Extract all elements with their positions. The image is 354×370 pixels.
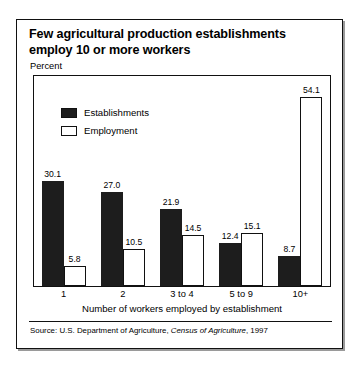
legend-label-employment: Employment <box>84 126 137 136</box>
bar-employment[interactable] <box>123 249 145 286</box>
bar-value-label: 8.7 <box>283 245 295 254</box>
legend-item-employment: Employment <box>61 122 149 139</box>
bar-group: 12.415.1 <box>219 76 263 286</box>
x-axis-tick-label: 1 <box>61 288 66 300</box>
bar-group: 8.754.1 <box>278 76 322 286</box>
bar-group: 21.914.5 <box>160 76 204 286</box>
bar-value-label: 12.4 <box>222 232 239 241</box>
bar-value-label: 5.8 <box>69 255 81 264</box>
x-axis-tick-label: 5 to 9 <box>230 288 253 300</box>
bar-establishments[interactable] <box>219 243 241 286</box>
source-prefix: Source: U.S. Department of Agriculture, <box>30 326 171 335</box>
bar-value-label: 54.1 <box>303 86 320 95</box>
bar-employment[interactable] <box>241 233 263 286</box>
chart-legend: Establishments Employment <box>61 104 149 140</box>
legend-swatch-employment-icon <box>61 126 77 136</box>
bar-value-label: 14.5 <box>185 224 202 233</box>
source-note: Source: U.S. Department of Agriculture, … <box>30 326 268 336</box>
bar-establishments[interactable] <box>160 209 182 286</box>
bar-employment[interactable] <box>300 97 322 286</box>
bar-employment[interactable] <box>182 235 204 286</box>
source-divider <box>29 321 332 322</box>
bar-value-label: 21.9 <box>163 198 180 207</box>
x-axis-tick-label: 3 to 4 <box>170 288 193 300</box>
x-axis-tick-label: 10+ <box>293 288 309 300</box>
bar-value-label: 27.0 <box>103 181 120 190</box>
y-axis-caption: Percent <box>30 61 62 72</box>
source-publication: Census of Agriculture <box>171 326 246 335</box>
bar-establishments[interactable] <box>42 181 64 286</box>
legend-item-establishments: Establishments <box>61 104 149 121</box>
bar-value-label: 30.1 <box>44 170 61 179</box>
bar-establishments[interactable] <box>278 256 300 286</box>
chart-card: Few agricultural production establishmen… <box>16 19 343 349</box>
legend-label-establishments: Establishments <box>84 108 149 118</box>
legend-swatch-establishments-icon <box>61 108 77 118</box>
plot-frame: 30.15.827.010.521.914.512.415.18.754.1 E… <box>33 75 331 287</box>
x-axis-title: Number of workers employed by establishm… <box>33 303 331 315</box>
x-axis-tick-label: 2 <box>120 288 125 300</box>
bar-employment[interactable] <box>64 266 86 286</box>
bar-value-label: 15.1 <box>244 222 261 231</box>
x-axis-tick-labels: 123 to 45 to 910+ <box>33 288 331 302</box>
bar-establishments[interactable] <box>101 192 123 287</box>
chart-title: Few agricultural production establishmen… <box>29 27 329 58</box>
bar-value-label: 10.5 <box>125 238 142 247</box>
source-suffix: , 1997 <box>246 326 268 335</box>
